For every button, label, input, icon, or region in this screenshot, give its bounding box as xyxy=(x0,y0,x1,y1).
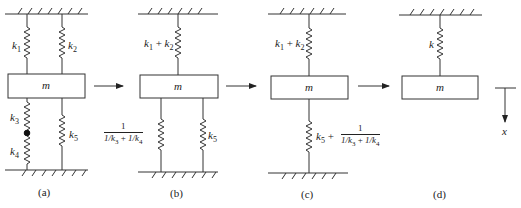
series-junction-dot xyxy=(24,130,30,136)
spring-k3-k4-equivalent xyxy=(158,98,164,172)
label-k1-plus-k2-b: k1 + k2 xyxy=(144,38,174,52)
label-k5-b: k5 xyxy=(208,130,217,144)
top-wall-b xyxy=(138,8,218,14)
label-k2: k2 xyxy=(68,40,77,54)
diagram-canvas xyxy=(0,0,521,208)
spring-k-equivalent xyxy=(437,15,443,76)
label-k5: k5 xyxy=(69,129,78,143)
spring-k1-plus-k2 xyxy=(175,14,181,75)
label-k3: k3 xyxy=(10,112,19,126)
bottom-wall-a xyxy=(5,170,88,176)
label-k1: k1 xyxy=(12,40,21,54)
label-k3-k4-series-fraction-c: 1 1/k3 + 1/k4 xyxy=(341,124,380,148)
spring-k1 xyxy=(24,14,30,74)
spring-k2 xyxy=(59,14,65,74)
label-k: k xyxy=(429,39,434,50)
axis-label-x: x xyxy=(502,126,507,137)
top-wall-a xyxy=(5,8,88,14)
caption-d: (d) xyxy=(433,189,446,200)
label-k3-k4-series-equivalent: 1 1/k3 + 1/k4 xyxy=(104,122,143,146)
bottom-wall-c xyxy=(268,173,348,179)
spring-combined-bottom xyxy=(306,99,312,173)
label-k5-plus-series: k5 + xyxy=(316,131,334,145)
label-k1-plus-k2-c: k1 + k2 xyxy=(275,38,305,52)
mass-label-a: m xyxy=(42,80,50,91)
mass-label-d: m xyxy=(436,82,444,93)
panel-b xyxy=(138,8,218,178)
top-wall-d xyxy=(399,9,482,15)
caption-a: (a) xyxy=(38,187,50,198)
displacement-axis xyxy=(495,88,516,122)
panel-c xyxy=(268,8,348,179)
mass-label-b: m xyxy=(174,81,182,92)
bottom-wall-b xyxy=(138,172,218,178)
spring-k5 xyxy=(59,98,65,170)
mass-label-c: m xyxy=(305,82,313,93)
top-wall-c xyxy=(268,8,346,14)
caption-b: (b) xyxy=(170,188,183,199)
caption-c: (c) xyxy=(301,189,313,200)
spring-k5-b xyxy=(200,98,206,172)
label-k4: k4 xyxy=(10,146,19,160)
panel-d xyxy=(399,9,516,122)
spring-k1-plus-k2-c xyxy=(306,14,312,76)
